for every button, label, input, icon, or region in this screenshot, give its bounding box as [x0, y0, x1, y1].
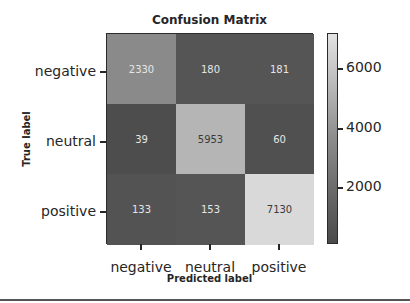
x-axis-label: Predicted label	[106, 273, 313, 284]
cell-value: 7130	[267, 204, 292, 215]
cell-value: 180	[201, 64, 220, 75]
chart-title: Confusion Matrix	[106, 13, 313, 27]
y-tick-label-negative: negative	[0, 63, 96, 79]
matrix-cell: 181	[245, 34, 314, 104]
colorbar-label-4000: 4000	[346, 119, 382, 135]
cell-value: 39	[135, 134, 148, 145]
matrix-cell: 180	[176, 34, 245, 104]
y-tick-label-positive: positive	[0, 203, 96, 219]
matrix-cell: 2330	[107, 34, 176, 104]
cell-value: 60	[273, 134, 286, 145]
cell-value: 2330	[129, 64, 154, 75]
y-tick-label-neutral: neutral	[0, 133, 96, 149]
colorbar-label-6000: 6000	[346, 59, 382, 75]
confusion-matrix-grid: 2330 180 181 39 5953 60 133 153 7130	[106, 33, 313, 244]
colorbar-label-2000: 2000	[346, 178, 382, 194]
divider-line	[0, 299, 410, 301]
colorbar	[327, 33, 338, 244]
cell-value: 181	[270, 64, 289, 75]
cell-value: 153	[201, 204, 220, 215]
cell-value: 133	[132, 204, 151, 215]
colorbar-tick	[338, 128, 343, 130]
x-tick-mark	[278, 244, 280, 250]
matrix-cell: 39	[107, 104, 176, 174]
matrix-cell: 133	[107, 174, 176, 245]
colorbar-tick	[338, 68, 343, 70]
matrix-cell: 60	[245, 104, 314, 174]
colorbar-tick	[338, 187, 343, 189]
matrix-cell: 5953	[176, 104, 245, 174]
cell-value: 5953	[198, 134, 223, 145]
x-tick-mark	[209, 244, 211, 250]
matrix-cell: 7130	[245, 174, 314, 245]
matrix-cell: 153	[176, 174, 245, 245]
x-tick-mark	[140, 244, 142, 250]
